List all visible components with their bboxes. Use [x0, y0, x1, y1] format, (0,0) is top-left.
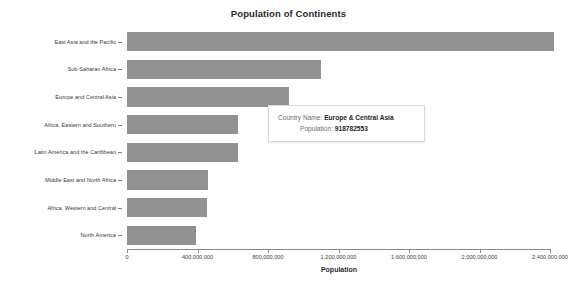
- tooltip-population-row: Population: 918782553: [278, 123, 415, 134]
- y-axis-tick-label: Latin America and the Caribbean: [0, 149, 116, 155]
- bar-row[interactable]: [127, 32, 550, 51]
- y-axis-tick: [118, 235, 122, 236]
- bar[interactable]: [127, 60, 321, 79]
- y-axis-tick: [118, 97, 122, 98]
- tooltip-country-value: Europe & Central Asia: [324, 114, 393, 121]
- x-axis-tick: [198, 249, 199, 253]
- x-axis-tick: [268, 249, 269, 253]
- tooltip-population-label: Population:: [300, 125, 333, 132]
- chart-tooltip: Country Name: Europe & Central Asia Popu…: [268, 105, 425, 142]
- y-axis-tick-label: North America: [0, 232, 116, 238]
- y-axis-tick-label: Sub-Saharan Africa: [0, 66, 116, 72]
- bar[interactable]: [127, 32, 554, 51]
- bar-chart: Population of Continents East Asia and t…: [0, 0, 577, 287]
- x-axis-tick-label: 1,600,000,000: [391, 254, 427, 260]
- y-axis-tick: [118, 125, 122, 126]
- x-axis-tick: [127, 249, 128, 253]
- tooltip-country-label: Country Name:: [278, 114, 322, 121]
- y-axis-tick-label: Africa, Eastern and Southern: [0, 122, 116, 128]
- x-axis-tick-label: 800,000,000: [252, 254, 283, 260]
- bar[interactable]: [127, 87, 289, 106]
- bar-row[interactable]: [127, 60, 550, 79]
- y-axis-tick: [118, 42, 122, 43]
- y-axis-tick-label: Africa, Western and Central: [0, 205, 116, 211]
- y-axis-tick-label: Middle East and North Africa: [0, 177, 116, 183]
- bar[interactable]: [127, 170, 208, 189]
- x-axis-title: Population: [127, 266, 551, 273]
- tooltip-population-value: 918782553: [335, 125, 368, 132]
- x-axis-tick: [550, 249, 551, 253]
- x-axis-tick-label: 0: [125, 254, 128, 260]
- y-axis-tick: [118, 152, 122, 153]
- x-axis-tick-label: 1,200,000,000: [321, 254, 357, 260]
- y-axis-tick-label: Europe and Central Asia: [0, 94, 116, 100]
- x-axis-tick-label: 2,400,000,000: [532, 254, 568, 260]
- bar[interactable]: [127, 226, 196, 245]
- bar[interactable]: [127, 198, 207, 217]
- y-axis-tick-label: East Asia and the Pacific: [0, 39, 116, 45]
- x-axis-tick: [339, 249, 340, 253]
- bar-row[interactable]: [127, 170, 550, 189]
- bar[interactable]: [127, 115, 238, 134]
- bar-row[interactable]: [127, 143, 550, 162]
- bar-row[interactable]: [127, 226, 550, 245]
- x-axis-tick-label: 400,000,000: [182, 254, 213, 260]
- y-axis-tick: [118, 69, 122, 70]
- bar[interactable]: [127, 143, 238, 162]
- x-axis-tick: [480, 249, 481, 253]
- tooltip-country-row: Country Name: Europe & Central Asia: [278, 112, 415, 123]
- x-axis-tick: [409, 249, 410, 253]
- y-axis-category-labels: East Asia and the PacificSub-Saharan Afr…: [0, 28, 122, 249]
- bar-row[interactable]: [127, 87, 550, 106]
- x-axis-tick-label: 2,000,000,000: [462, 254, 498, 260]
- y-axis-tick: [118, 208, 122, 209]
- y-axis-tick: [118, 180, 122, 181]
- bar-row[interactable]: [127, 198, 550, 217]
- chart-title: Population of Continents: [0, 8, 577, 19]
